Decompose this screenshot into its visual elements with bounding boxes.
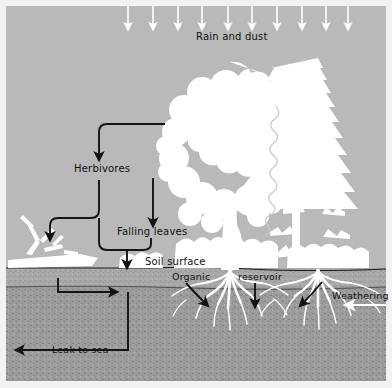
label-reservoir: reservoir (238, 271, 282, 282)
diagram-canvas (0, 0, 392, 388)
diagram-figure: Rain and dust Herbivores Falling leaves … (0, 0, 392, 388)
label-organic: Organic (172, 271, 210, 282)
label-herbivores: Herbivores (74, 163, 130, 174)
label-leak-to-sea: Leak to sea (52, 344, 109, 355)
label-rain-and-dust: Rain and dust (196, 31, 268, 42)
label-weathering: Weathering (332, 290, 389, 301)
label-soil-surface: Soil surface (145, 256, 206, 267)
label-falling-leaves: Falling leaves (117, 226, 187, 237)
